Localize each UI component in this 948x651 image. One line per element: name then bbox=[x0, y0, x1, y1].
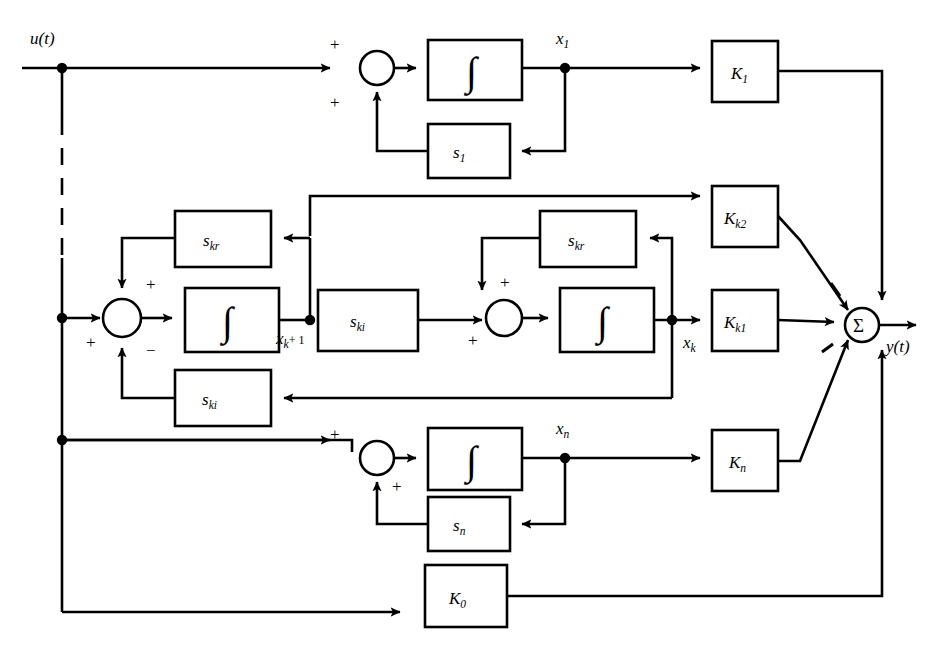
summer-k1-minus-bottom: − bbox=[146, 341, 156, 360]
summer-n bbox=[360, 441, 394, 475]
block-diagram-root: u(t) + + ∫ x1 s1 K1 Kk2 bbox=[0, 0, 948, 651]
summer-k-plus-left: + bbox=[468, 331, 478, 350]
summer-n-plus-bottom: + bbox=[392, 477, 402, 496]
gain-block-K0 bbox=[425, 565, 507, 627]
feedback-block-sn bbox=[428, 497, 510, 551]
summer-n-plus-left: + bbox=[330, 425, 340, 444]
gain-block-Kk1 bbox=[712, 290, 778, 351]
summer-k1-plus-top: + bbox=[146, 275, 156, 294]
gain-block-Kk2 bbox=[712, 186, 778, 247]
output-summer-symbol: Σ bbox=[853, 315, 864, 336]
summer-1-plus-left: + bbox=[330, 35, 340, 54]
summer-k bbox=[486, 300, 522, 336]
forward-block-ski bbox=[318, 290, 418, 351]
state-label-xk1: xk+ 1 bbox=[275, 329, 304, 350]
feedback-block-skr-left bbox=[175, 211, 271, 267]
summer-k1 bbox=[103, 299, 141, 337]
feedback-block-skr-right bbox=[540, 211, 636, 267]
junction-dot-input-top bbox=[57, 63, 67, 73]
feedback-block-s1 bbox=[428, 124, 510, 178]
gain-block-Kn bbox=[712, 430, 778, 491]
gain-block-K1 bbox=[712, 41, 778, 102]
summer-k1-plus-left: + bbox=[86, 333, 96, 352]
summer-1-plus-bottom: + bbox=[330, 93, 340, 112]
feedback-block-ski-bottom bbox=[175, 370, 271, 426]
summer-k-plus-top: + bbox=[500, 273, 510, 292]
input-label: u(t) bbox=[30, 29, 55, 48]
summer-1 bbox=[360, 51, 394, 85]
output-label: y(t) bbox=[884, 337, 910, 356]
